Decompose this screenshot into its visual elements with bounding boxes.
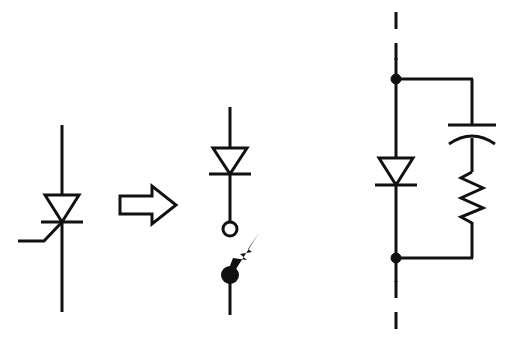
middle-diode-triangle-icon [213, 148, 247, 174]
snubber-diode-triangle-icon [379, 158, 413, 185]
snubber-network-group [375, 12, 496, 331]
double-right-arrow-icon [120, 186, 176, 224]
thyristor-gate-lead [18, 222, 62, 241]
top-junction-dot [391, 74, 401, 84]
implication-arrow-group [120, 186, 176, 224]
circuit-diagram-figure [0, 0, 509, 343]
thyristor-symbol-group [18, 125, 83, 312]
bottom-junction-dot [391, 253, 401, 263]
circuit-diagram-canvas [0, 0, 509, 343]
switch-open-terminal-node [223, 222, 237, 236]
thyristor-diode-triangle-icon [45, 195, 79, 222]
resistor-zigzag-icon [461, 172, 483, 223]
diode-switch-model-group [209, 107, 259, 315]
